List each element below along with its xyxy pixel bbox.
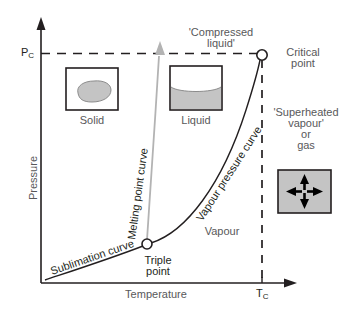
vapour-region-label: Vapour bbox=[192, 226, 252, 237]
superheated-line-4: gas bbox=[268, 140, 344, 151]
y-axis-label: Pressure bbox=[28, 156, 39, 200]
liquid-region-label: Liquid bbox=[166, 115, 226, 126]
y-axis-arrowhead bbox=[37, 17, 46, 30]
critical-temperature-tick-label: TC bbox=[256, 288, 269, 302]
x-axis-label: Temperature bbox=[108, 289, 204, 300]
triple-point-line-2: point bbox=[128, 266, 188, 277]
x-axis-arrowhead bbox=[284, 279, 297, 288]
pc-subscript: C bbox=[28, 51, 34, 60]
tc-symbol: T bbox=[256, 287, 263, 299]
phase-diagram-figure: Melting point curve Vapour pressure curv… bbox=[0, 0, 346, 318]
solid-region-label: Solid bbox=[62, 115, 122, 126]
melting-point-curve-label: Melting point curve bbox=[125, 147, 150, 240]
vapour-pressure-curve-label: Vapour pressure curve bbox=[194, 124, 264, 223]
critical-point-line-2: point bbox=[272, 58, 334, 69]
gas-inset-box bbox=[278, 170, 331, 213]
compressed-liquid-label: 'Compressed liquid' bbox=[178, 27, 264, 49]
melting-point-curve-group bbox=[147, 41, 165, 240]
triple-point-marker bbox=[142, 239, 152, 249]
compressed-liquid-line-2: liquid' bbox=[178, 38, 264, 49]
critical-point-label: Critical point bbox=[272, 47, 334, 69]
solid-blob-shape bbox=[78, 81, 111, 102]
critical-pressure-tick-label: PC bbox=[21, 47, 34, 61]
triple-point-label: Triple point bbox=[128, 255, 188, 277]
solid-inset-box bbox=[66, 68, 118, 110]
melting-point-curve bbox=[147, 56, 159, 240]
superheated-vapour-label: 'Superheated vapour' or gas bbox=[268, 107, 344, 151]
melting-point-curve-arrowhead bbox=[155, 41, 165, 55]
tc-subscript: C bbox=[263, 292, 269, 301]
critical-point-marker bbox=[257, 50, 267, 60]
liquid-inset-box bbox=[170, 66, 222, 110]
sublimation-curve-label: Sublimation curve bbox=[49, 237, 136, 277]
